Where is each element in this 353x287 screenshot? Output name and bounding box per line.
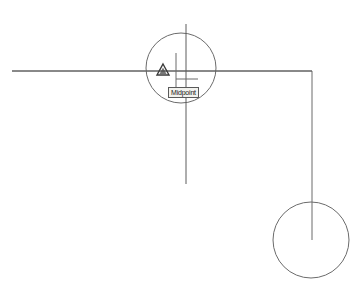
- circle-object[interactable]: [273, 202, 349, 278]
- snap-tooltip: Midpoint: [168, 87, 199, 98]
- snap-tooltip-label: Midpoint: [171, 88, 196, 97]
- cad-drawing-canvas[interactable]: [0, 0, 353, 287]
- polyline-geometry[interactable]: [12, 71, 312, 240]
